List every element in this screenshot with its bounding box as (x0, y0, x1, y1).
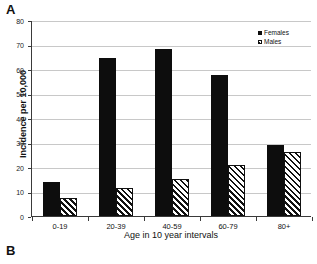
bar-males-40-59 (172, 179, 189, 216)
legend-item-females: Females (258, 28, 314, 37)
x-tick-mark (200, 217, 201, 221)
y-tick-label: 0 (4, 214, 24, 221)
bar-group (88, 21, 144, 216)
x-tick-label: 0-19 (30, 223, 90, 231)
x-tick-mark (144, 217, 145, 221)
x-tick-mark (88, 217, 89, 221)
bar-group (256, 21, 312, 216)
y-tick-label: 10 (4, 189, 24, 196)
chart-legend: Females Males (258, 28, 314, 46)
y-tick-label: 50 (4, 91, 24, 98)
bar-males-80+ (284, 152, 301, 216)
bar-group (200, 21, 256, 216)
x-tick-label: 80+ (254, 223, 314, 231)
bar-females-20-39 (99, 58, 116, 216)
bar-group (32, 21, 88, 216)
legend-swatch-males-icon (258, 40, 262, 44)
x-tick-label: 40-59 (142, 223, 202, 231)
y-tick-label: 20 (4, 165, 24, 172)
bar-females-0-19 (43, 182, 60, 216)
x-tick-mark (256, 217, 257, 221)
x-axis-title: Age in 10 year intervals (31, 230, 311, 240)
y-tick-label: 80 (4, 18, 24, 25)
y-tick-label: 60 (4, 67, 24, 74)
y-tick-mark (28, 217, 31, 218)
legend-item-males: Males (258, 37, 314, 46)
x-tick-label: 60-79 (198, 223, 258, 231)
y-tick-label: 30 (4, 140, 24, 147)
bar-males-20-39 (116, 188, 133, 216)
legend-swatch-females-icon (258, 31, 262, 35)
x-tick-mark (312, 217, 313, 221)
legend-label-females: Females (264, 29, 289, 36)
legend-label-males: Males (264, 38, 281, 45)
bar-group (144, 21, 200, 216)
x-tick-label: 20-39 (86, 223, 146, 231)
bar-males-60-79 (228, 165, 245, 216)
plot-area: 0-1920-3940-5960-7980+ (31, 21, 311, 217)
panel-label-b: B (6, 244, 15, 257)
bar-females-60-79 (211, 75, 228, 216)
y-tick-label: 70 (4, 42, 24, 49)
bar-females-40-59 (155, 49, 172, 216)
bar-females-80+ (267, 145, 284, 216)
bar-chart-figure: Incidence per 10,000 Age in 10 year inte… (0, 14, 317, 242)
x-tick-mark (32, 217, 33, 221)
bar-males-0-19 (60, 198, 77, 216)
y-tick-label: 40 (4, 116, 24, 123)
